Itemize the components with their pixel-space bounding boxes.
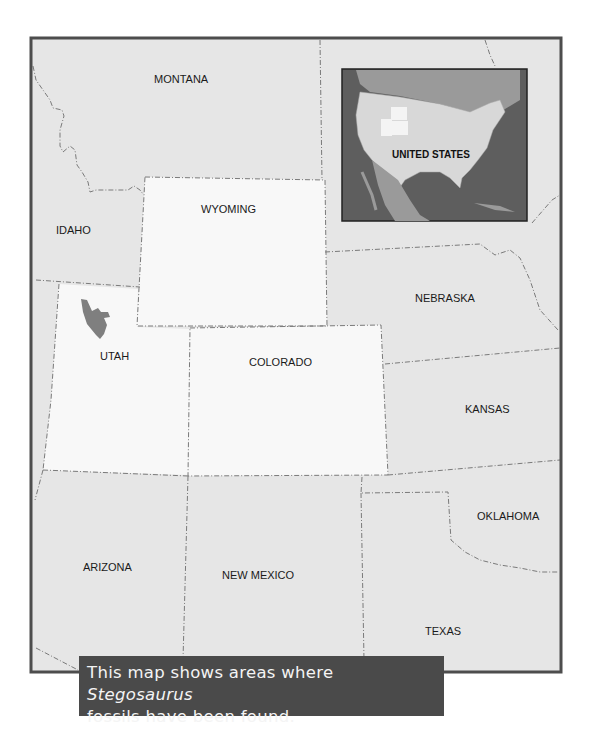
state-label-wyoming: WYOMING xyxy=(201,203,256,215)
state-colorado xyxy=(188,325,388,476)
state-label-utah: UTAH xyxy=(100,350,129,362)
inset-map: UNITED STATES xyxy=(342,69,527,221)
state-label-nebraska: NEBRASKA xyxy=(415,292,476,304)
state-label-colorado: COLORADO xyxy=(249,356,312,368)
map: UNITED STATES MONTANAIDAHOWYOMINGNEBRASK… xyxy=(0,0,592,748)
state-label-idaho: IDAHO xyxy=(56,224,91,236)
caption-line-2: fossils have been found. xyxy=(87,706,434,728)
caption-species-name: Stegosaurus xyxy=(87,685,193,704)
state-label-new-mexico: NEW MEXICO xyxy=(222,569,295,581)
inset-label: UNITED STATES xyxy=(392,149,470,160)
state-label-texas: TEXAS xyxy=(425,625,461,637)
caption: This map shows areas where Stegosaurus f… xyxy=(79,656,444,716)
state-wyoming xyxy=(137,177,327,326)
state-label-montana: MONTANA xyxy=(154,73,209,85)
state-label-kansas: KANSAS xyxy=(465,403,510,415)
caption-line-1: This map shows areas where Stegosaurus xyxy=(87,662,434,706)
state-label-oklahoma: OKLAHOMA xyxy=(477,510,540,522)
state-label-arizona: ARIZONA xyxy=(83,561,133,573)
